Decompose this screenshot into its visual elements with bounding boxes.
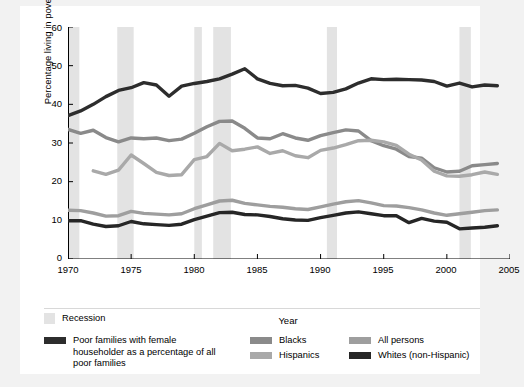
legend-item-all-persons: All persons bbox=[349, 335, 424, 347]
y-tick-30: 30 bbox=[36, 137, 62, 148]
recession-band-2 bbox=[194, 27, 202, 259]
legend-label-all-persons: All persons bbox=[378, 335, 424, 347]
blacks-swatch bbox=[250, 337, 272, 344]
legend-label-poor-families: Poor families with female householder as… bbox=[73, 335, 218, 370]
legend-label-blacks: Blacks bbox=[279, 335, 306, 347]
series-line-hispanics bbox=[93, 140, 497, 176]
legend-label-hispanics: Hispanics bbox=[279, 350, 319, 362]
x-tick-1995: 1995 bbox=[363, 264, 403, 275]
x-tick-1985: 1985 bbox=[237, 264, 277, 275]
legend-label-whites: Whites (non-Hispanic) bbox=[378, 350, 469, 362]
y-tick-0: 0 bbox=[36, 252, 62, 263]
x-tick-1990: 1990 bbox=[300, 264, 340, 275]
x-tick-1975: 1975 bbox=[111, 264, 151, 275]
all-persons-swatch bbox=[349, 337, 371, 344]
plot-area: 60 50 40 30 20 10 0 1970 1975 1980 1985 … bbox=[68, 27, 510, 259]
x-tick-2000: 2000 bbox=[426, 264, 466, 275]
y-tick-10: 10 bbox=[36, 214, 62, 225]
legend-label-recession: Recession bbox=[62, 313, 105, 325]
whites-swatch bbox=[349, 352, 371, 359]
axis-lines bbox=[69, 27, 511, 259]
footer-strip bbox=[0, 376, 500, 387]
chart-legend: Recession Poor families with female hous… bbox=[44, 313, 480, 369]
hispanics-swatch bbox=[250, 352, 272, 359]
x-tick-1980: 1980 bbox=[174, 264, 214, 275]
figure-panel: 60 50 40 30 20 10 0 1970 1975 1980 1985 … bbox=[20, 6, 480, 374]
x-tick-1970: 1970 bbox=[48, 264, 88, 275]
recession-swatch bbox=[44, 313, 55, 324]
recession-band-4 bbox=[327, 27, 337, 259]
poverty-line-chart bbox=[68, 27, 510, 259]
legend-item-poor-families: Poor families with female householder as… bbox=[44, 335, 224, 370]
y-tick-20: 20 bbox=[36, 175, 62, 186]
recession-band-5 bbox=[459, 27, 470, 259]
x-tick-2005: 2005 bbox=[489, 264, 524, 275]
legend-item-blacks: Blacks bbox=[250, 335, 306, 347]
y-axis-label: Percentage living in poverty bbox=[42, 0, 53, 131]
poor-families-swatch bbox=[44, 337, 66, 344]
legend-item-recession: Recession bbox=[44, 313, 105, 325]
plot-inner bbox=[68, 27, 510, 259]
legend-item-whites: Whites (non-Hispanic) bbox=[349, 350, 469, 362]
legend-item-hispanics: Hispanics bbox=[250, 350, 319, 362]
legend-divider bbox=[44, 308, 480, 309]
